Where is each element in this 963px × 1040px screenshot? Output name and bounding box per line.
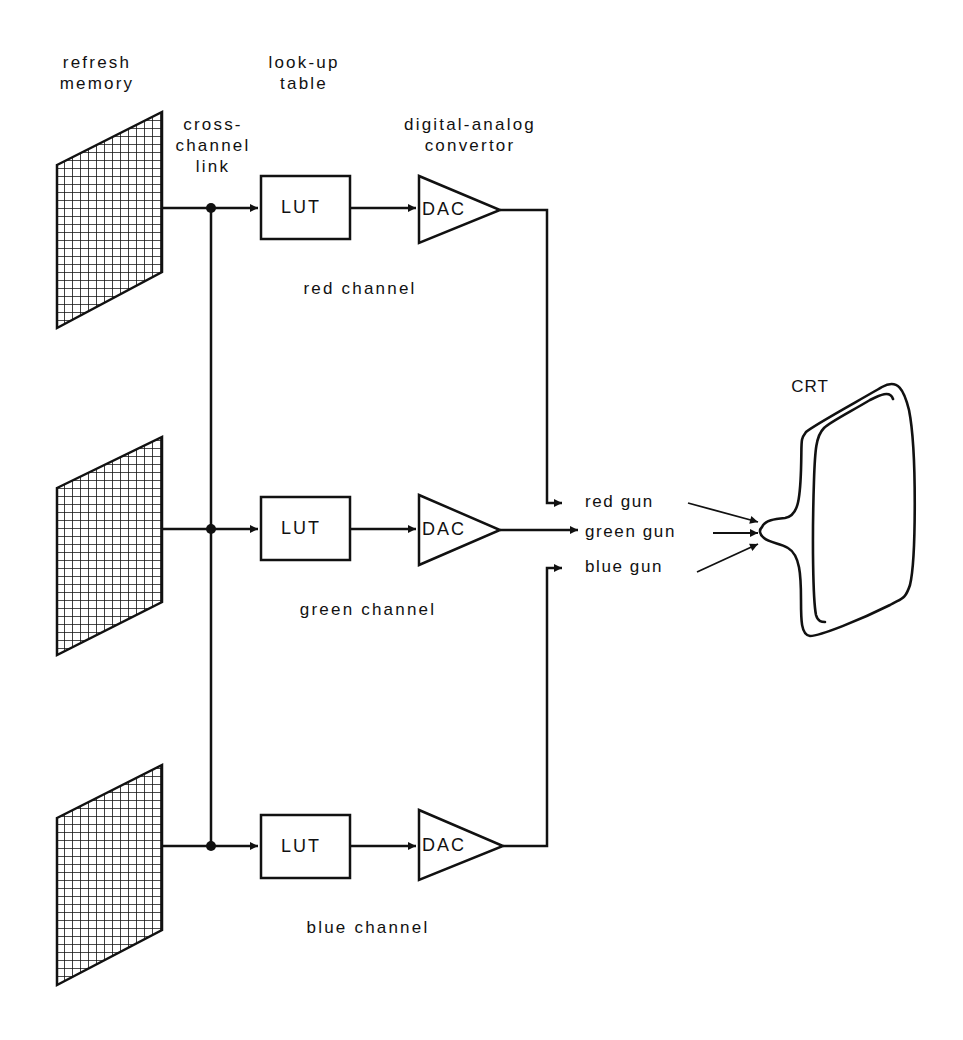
blue-gun-label: blue gun	[585, 557, 663, 577]
green-channel-label: green channel	[258, 599, 478, 620]
cross-channel-label-line1: cross-	[168, 114, 258, 135]
cross-channel-link-label: cross- channel link	[168, 114, 258, 177]
dac-label-line1: digital-analog	[370, 114, 570, 135]
red-channel-label: red channel	[270, 278, 450, 299]
dac-red-label: DAC	[422, 199, 466, 220]
crt-tube	[760, 384, 915, 636]
lut-green-label: LUT	[281, 518, 321, 539]
lookup-table-label-line1: look-up	[254, 52, 354, 73]
diagram-canvas	[0, 0, 963, 1040]
refresh-memory-red	[57, 112, 162, 328]
lut-blue-label: LUT	[281, 836, 321, 857]
lut-red-label: LUT	[281, 197, 321, 218]
lookup-table-label-line2: table	[254, 73, 354, 94]
dac-blue-label: DAC	[422, 835, 466, 856]
cross-channel-label-line2: channel	[168, 135, 258, 156]
blue-signal-wire	[503, 568, 562, 846]
dac-label-line2: convertor	[370, 135, 570, 156]
green-gun-label: green gun	[585, 522, 676, 542]
refresh-memory-blue	[57, 765, 162, 985]
refresh-memory-label-line1: refresh	[42, 52, 152, 73]
refresh-memory-label: refresh memory	[42, 52, 152, 94]
dac-green-label: DAC	[422, 519, 466, 540]
lookup-table-label: look-up table	[254, 52, 354, 94]
red-gun-label: red gun	[585, 492, 654, 512]
cross-channel-label-line3: link	[168, 156, 258, 177]
refresh-memory-green	[57, 437, 162, 655]
blue-channel-label: blue channel	[268, 917, 468, 938]
dac-label: digital-analog convertor	[370, 114, 570, 156]
crt-label: CRT	[780, 376, 840, 397]
red-signal-wire	[500, 210, 562, 503]
refresh-memory-label-line2: memory	[42, 73, 152, 94]
